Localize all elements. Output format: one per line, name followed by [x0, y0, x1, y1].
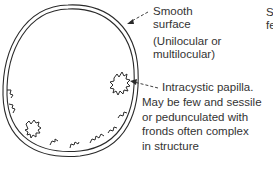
- label-line: May be few and sessile: [142, 95, 262, 110]
- label-line: in structure: [142, 139, 262, 154]
- label-line: Intracystic papilla.: [162, 81, 253, 94]
- label-line: surface: [153, 18, 193, 31]
- locularity-label: (Unilocular or multilocular): [153, 35, 221, 61]
- label-line: or pedunculated with: [142, 110, 262, 125]
- label-line: Smooth: [153, 5, 193, 18]
- label-line: (Unilocular or: [153, 35, 221, 48]
- label-line: fe: [266, 19, 273, 32]
- papillae: [7, 72, 130, 148]
- cyst-wall: [3, 5, 138, 157]
- label-line: S: [266, 6, 273, 19]
- label-line: fronds often complex: [142, 124, 262, 139]
- papilla-description: May be few and sessile or pedunculated w…: [142, 95, 262, 153]
- cutoff-text: S fe: [266, 6, 273, 32]
- label-line: multilocular): [153, 48, 221, 61]
- smooth-surface-label: Smooth surface: [153, 5, 193, 31]
- papilla-label: Intracystic papilla.: [162, 81, 253, 94]
